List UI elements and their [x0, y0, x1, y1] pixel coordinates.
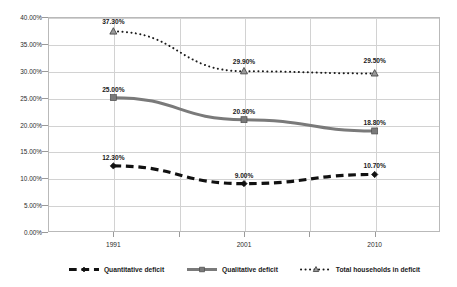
- data-point-marker: [241, 117, 247, 123]
- data-point-marker: [371, 70, 378, 76]
- legend-item-1[interactable]: Quantitative deficit: [68, 265, 164, 274]
- series-3: [110, 28, 378, 76]
- legend-item-2[interactable]: Qualitative deficit: [186, 265, 278, 274]
- data-point-marker: [372, 128, 378, 134]
- legend-item-label: Qualitative deficit: [222, 266, 278, 273]
- data-point-marker: [110, 163, 116, 169]
- data-point-label: 12.30%: [102, 154, 124, 161]
- data-point-marker: [110, 28, 117, 34]
- data-point-label: 29.90%: [233, 58, 255, 65]
- legend-item-3[interactable]: Total households in deficit: [300, 265, 420, 274]
- legend-key-icon: [300, 265, 332, 274]
- data-point-marker: [110, 95, 116, 101]
- legend: Quantitative deficitQualitative deficitT…: [48, 258, 440, 280]
- series-overlay: [0, 0, 457, 287]
- data-point-label: 9.00%: [235, 172, 254, 179]
- legend-key-icon: [68, 265, 100, 274]
- data-point-label: 25.00%: [102, 86, 124, 93]
- data-point-marker: [241, 180, 247, 186]
- data-point-label: 37.30%: [102, 18, 124, 25]
- line-chart: 0.00%5.00%10.00%15.00%20.00%25.00%30.00%…: [0, 0, 457, 287]
- legend-item-label: Total households in deficit: [336, 266, 420, 273]
- legend-item-label: Quantitative deficit: [104, 266, 164, 273]
- legend-key-icon: [186, 265, 218, 274]
- data-point-label: 18.80%: [363, 119, 385, 126]
- data-point-marker: [241, 67, 248, 73]
- data-point-label: 10.70%: [363, 162, 385, 169]
- data-point-label: 29.50%: [363, 57, 385, 64]
- data-point-marker: [371, 171, 377, 177]
- data-point-label: 20.90%: [233, 108, 255, 115]
